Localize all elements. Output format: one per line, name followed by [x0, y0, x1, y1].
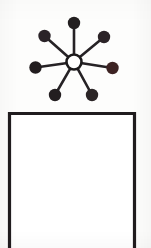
open-rectangle-svg [7, 111, 138, 248]
hub-node-icon [67, 55, 82, 70]
leaf-node-top [68, 17, 80, 29]
star-network-diagram [26, 10, 126, 108]
leaf-node-upper-left [38, 30, 50, 42]
leaf-node-right [106, 62, 118, 74]
leaf-node-bottom-right [86, 89, 98, 101]
leaf-node-bottom-left [49, 89, 61, 101]
figure-canvas [0, 0, 151, 248]
frame-interior [10, 114, 135, 248]
open-rectangle-frame [7, 111, 138, 248]
leaf-node-left [29, 61, 41, 73]
leaf-node-upper-right [98, 31, 110, 43]
star-network-svg [26, 10, 126, 108]
